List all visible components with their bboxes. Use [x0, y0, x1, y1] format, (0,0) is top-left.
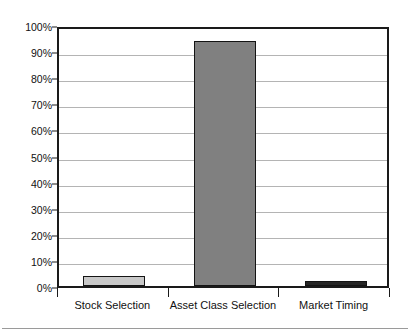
bar [194, 41, 256, 286]
bar-slot [170, 29, 281, 286]
y-axis-tick-label: 10% [8, 257, 52, 268]
category-label: Stock Selection [57, 299, 168, 311]
bar-slot [280, 29, 391, 286]
category-tick-mark [168, 288, 169, 297]
y-axis-tick-label: 60% [8, 126, 52, 137]
category-tick-mark [389, 288, 390, 297]
category-label: Market Timing [278, 299, 389, 311]
y-axis-tick-label: 0% [8, 283, 52, 294]
category-label: Asset Class Selection [168, 299, 279, 311]
y-axis-tick-label: 20% [8, 231, 52, 242]
y-axis-tick-label: 80% [8, 74, 52, 85]
bar [305, 281, 367, 286]
plot-area [57, 27, 389, 288]
y-axis-tick-label: 70% [8, 100, 52, 111]
y-axis-tick-label: 90% [8, 48, 52, 59]
y-axis-tick-label: 30% [8, 204, 52, 215]
bar-slot [59, 29, 170, 286]
y-axis-tick-label: 40% [8, 178, 52, 189]
bar [83, 276, 145, 286]
y-axis-tick-label: 50% [8, 152, 52, 163]
bottom-divider [2, 328, 408, 329]
y-axis-tick-label: 100% [8, 22, 52, 33]
bar-chart: 0%10%20%30%40%50%60%70%80%90%100% Stock … [0, 0, 410, 336]
category-tick-mark [57, 288, 58, 297]
category-tick-mark [278, 288, 279, 297]
